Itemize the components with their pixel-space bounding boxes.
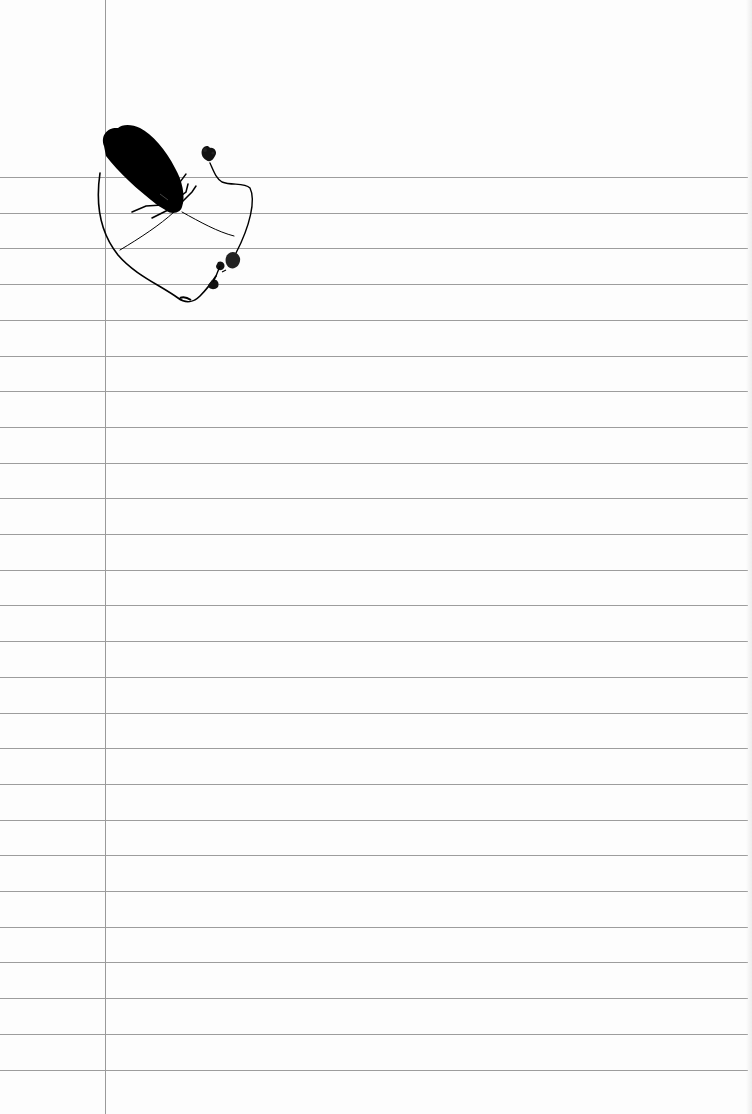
rule-line [0, 927, 748, 928]
rule-line [0, 534, 748, 535]
rule-line [0, 320, 748, 321]
page-edge-shadow [746, 0, 752, 1114]
rule-line [0, 570, 748, 571]
rule-line [0, 998, 748, 999]
stem-upper [210, 163, 252, 253]
rule-line [0, 1034, 748, 1035]
moth-illustration [90, 115, 270, 315]
rule-line [0, 641, 748, 642]
flower-head-top [202, 146, 216, 161]
rule-line [0, 498, 748, 499]
rule-line [0, 855, 748, 856]
rule-line [0, 605, 748, 606]
moth-body [103, 125, 234, 250]
rule-line [0, 748, 748, 749]
flower-head-lower [208, 252, 240, 289]
rule-line [0, 356, 748, 357]
rule-line [0, 713, 748, 714]
rule-line [0, 820, 748, 821]
notebook-page [0, 0, 752, 1114]
rule-line [0, 1070, 748, 1071]
rule-line [0, 891, 748, 892]
rule-line [0, 962, 748, 963]
rule-line [0, 427, 748, 428]
rule-line [0, 391, 748, 392]
rule-line [0, 784, 748, 785]
rule-line [0, 463, 748, 464]
rule-line [0, 677, 748, 678]
